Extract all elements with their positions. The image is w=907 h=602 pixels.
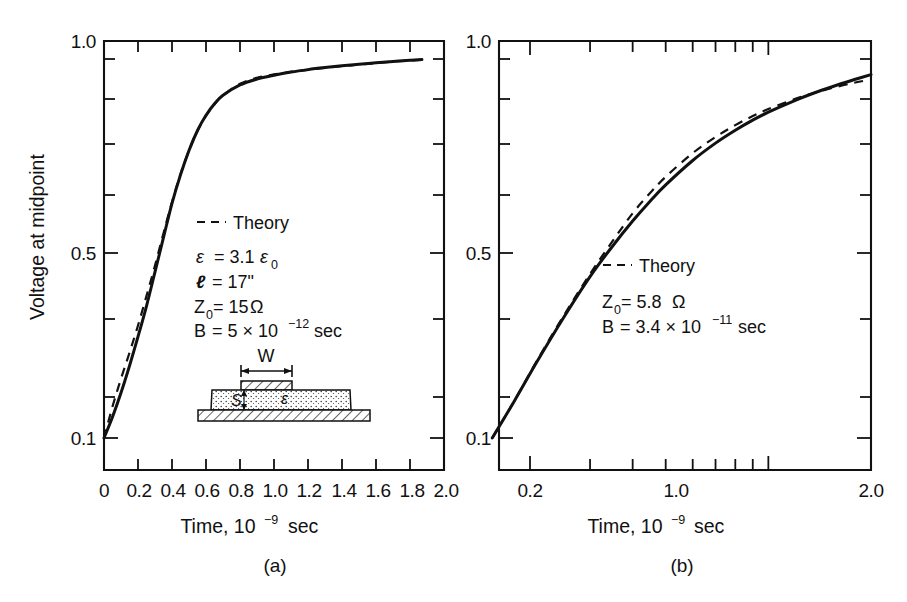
panel-b-annot-z0: Z 0 = 5.8 Ω xyxy=(602,292,685,317)
panel-b-xtitle-prefix: Time, 10 xyxy=(587,515,662,537)
panel-b-annot-b: B = 3.4 × 10 −11 sec xyxy=(602,313,766,337)
panel-a-ytick-0.1: 0.1 xyxy=(71,428,96,449)
microstrip-inset: W S ε xyxy=(198,346,370,421)
panel-b-xtick-0.2: 0.2 xyxy=(517,480,542,501)
panel-a-ytick-0.5: 0.5 xyxy=(71,243,96,264)
panel-a-xtick-1.2: 1.2 xyxy=(296,480,321,501)
annot-z0-eq: = 15 xyxy=(213,297,249,317)
annot-len-sym: ℓ xyxy=(196,272,206,292)
inset-permittivity-label: ε xyxy=(281,390,289,407)
panel-a-annot-epsilon: ε = 3.1 ε 0 xyxy=(196,247,278,272)
panel-a-ytick-1.0: 1.0 xyxy=(71,31,96,52)
panel-a-annot-b: B = 5 × 10 −12 sec xyxy=(194,317,342,341)
annot-b-exp: −12 xyxy=(288,317,309,331)
panel-a-xtick-0.4: 0.4 xyxy=(160,480,186,501)
panel-a-xtick-0.6: 0.6 xyxy=(194,480,219,501)
panel-a-xtick-0.2: 0.2 xyxy=(126,480,151,501)
annot-b-z0-eq: = 5.8 xyxy=(621,292,662,312)
inset-arrowhead-left xyxy=(241,368,249,374)
inset-substrate-label: S xyxy=(231,392,242,409)
figure-svg: 1.0 0.5 0.1 xyxy=(0,0,907,602)
panel-a-y-ticks xyxy=(104,41,444,438)
panel-a-annot-length: ℓ = 17" xyxy=(196,272,254,292)
panel-b-xtick-1.0: 1.0 xyxy=(663,480,688,501)
inset-width-label: W xyxy=(258,346,275,366)
annot-len-eq: = 17" xyxy=(212,272,254,292)
panel-b-annotations: Theory Z 0 = 5.8 Ω B = 3.4 × 10 −11 sec xyxy=(602,256,766,337)
annot-b-unit: sec xyxy=(314,321,342,341)
panel-a-xtitle-prefix: Time, 10 xyxy=(180,515,255,537)
annot-z0-sym: Z xyxy=(194,297,205,317)
panel-b-ytick-0.1: 0.1 xyxy=(466,428,491,449)
panel-b: 1.0 0.5 0.1 0.2 1.0 2.0 Time, 10 −9 sec … xyxy=(466,31,884,576)
annot-b-eq: = 5 × 10 xyxy=(212,321,278,341)
panel-a-legend-label: Theory xyxy=(233,213,289,233)
inset-ground-plane xyxy=(198,410,370,421)
panel-a-xtick-1.4: 1.4 xyxy=(331,480,357,501)
panel-b-ytick-0.5: 0.5 xyxy=(466,243,491,264)
annot-b-z0-sub: 0 xyxy=(614,303,621,317)
panel-a-caption: (a) xyxy=(263,555,286,576)
panel-a-xtick-1.6: 1.6 xyxy=(365,480,390,501)
panel-a-xtick-0.8: 0.8 xyxy=(228,480,253,501)
annot-eps-unit-sub: 0 xyxy=(271,258,278,272)
inset-strip-conductor xyxy=(241,381,292,390)
inset-arrowhead-right xyxy=(284,368,292,374)
panel-a-xtitle-suffix: sec xyxy=(288,515,319,537)
panel-b-xtick-2.0: 2.0 xyxy=(858,480,883,501)
annot-b-b-unit: sec xyxy=(738,317,766,337)
y-axis-title: Voltage at midpoint xyxy=(26,154,48,320)
panel-a-xtick-1.8: 1.8 xyxy=(399,480,424,501)
panel-a-xtitle-exp: −9 xyxy=(264,513,278,527)
panel-a-annot-z0: Z 0 = 15 Ω xyxy=(194,297,263,322)
panel-a-xtick-2.0: 2.0 xyxy=(433,480,458,501)
panel-b-x-ticks xyxy=(530,41,871,470)
panel-a-annotations: Theory ε = 3.1 ε 0 ℓ = 17" Z 0 = 15 Ω xyxy=(194,213,342,341)
annot-b-b-exp: −11 xyxy=(712,313,732,327)
panel-b-caption: (b) xyxy=(670,555,693,576)
annot-b-z0-sym: Z xyxy=(602,292,613,312)
annot-z0-unit: Ω xyxy=(250,297,263,317)
annot-eps-unit: ε xyxy=(260,247,269,267)
panel-a-x-axis-title: Time, 10 −9 sec xyxy=(180,513,318,537)
annot-b-z0-unit: Ω xyxy=(672,292,685,312)
panel-a-x-ticklabels: 0 0.2 0.4 0.6 0.8 1.0 1.2 1.4 1.6 1.8 2.… xyxy=(99,480,459,501)
annot-eps-eq: = 3.1 xyxy=(214,247,255,267)
panel-b-ytick-1.0: 1.0 xyxy=(466,31,491,52)
panel-b-legend-label: Theory xyxy=(639,256,695,276)
panel-a-xtick-1.0: 1.0 xyxy=(262,480,287,501)
panel-a-xtick-0: 0 xyxy=(99,480,109,501)
annot-b-b-sym: B xyxy=(602,317,614,337)
annot-eps-sym: ε xyxy=(196,247,205,267)
figure-container: 1.0 0.5 0.1 xyxy=(0,0,907,602)
panel-b-x-axis-title: Time, 10 −9 sec xyxy=(587,513,724,537)
annot-z0-sub: 0 xyxy=(206,308,213,322)
panel-a: 1.0 0.5 0.1 xyxy=(26,31,459,576)
annot-b-b-eq: = 3.4 × 10 xyxy=(620,317,701,337)
panel-b-xtitle-exp: −9 xyxy=(671,513,685,527)
annot-b-sym: B xyxy=(194,321,206,341)
panel-b-xtitle-suffix: sec xyxy=(694,515,725,537)
panel-b-y-ticks xyxy=(499,41,871,438)
